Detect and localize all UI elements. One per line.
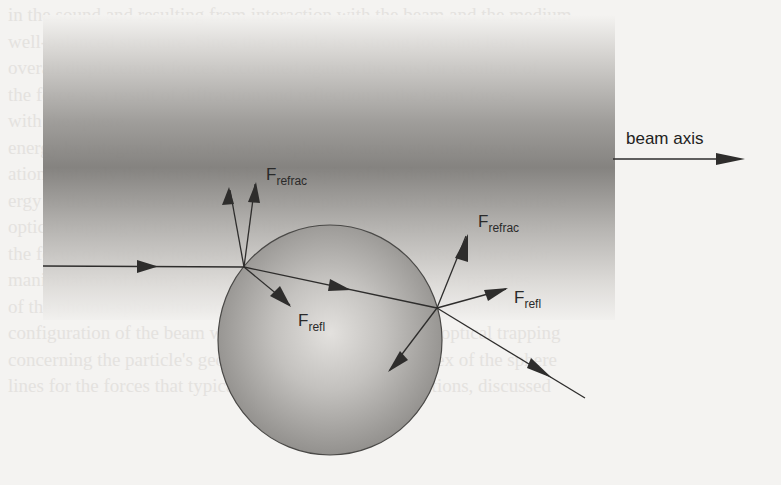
optical-force-diagram: beam axis Frefrac Frefl Frefrac Fref xyxy=(0,0,781,485)
beam-axis-arrow xyxy=(613,153,745,165)
beam-axis-label: beam axis xyxy=(626,129,703,148)
exit-ray xyxy=(437,308,585,398)
dielectric-sphere xyxy=(218,225,442,455)
